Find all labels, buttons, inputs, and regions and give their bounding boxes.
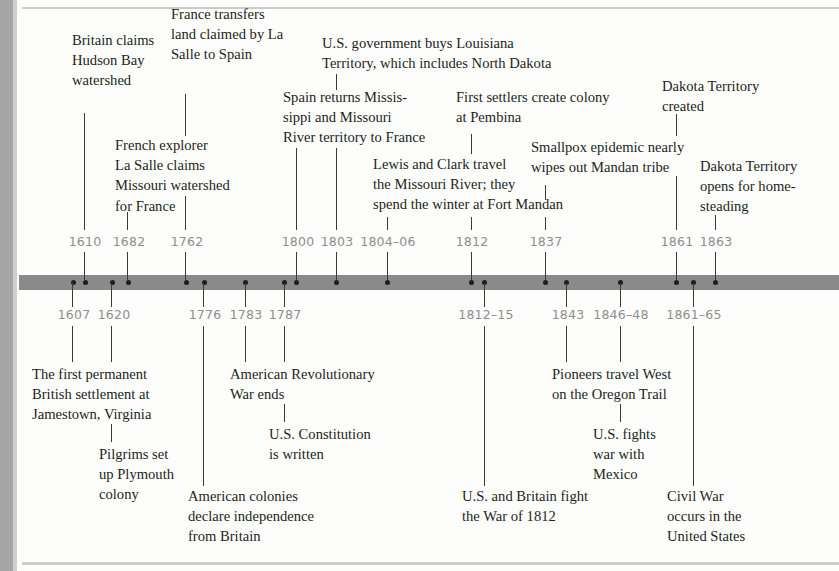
connector-1812-bar — [471, 252, 472, 280]
connector-1803-bar — [336, 252, 337, 280]
event-dot-1812[interactable] — [469, 280, 474, 285]
event-dot-1804-06[interactable] — [385, 280, 390, 285]
year-label-1682: 1682 — [113, 234, 146, 249]
connector-1863-label — [715, 215, 716, 230]
event-label-1861-65: Civil Waroccurs in theUnited States — [667, 486, 745, 547]
connector-1846-48-label — [620, 326, 621, 362]
connector-1610-label — [84, 113, 85, 230]
event-label-1812: First settlers create colonyat Pembina — [456, 87, 610, 127]
event-dot-1682[interactable] — [126, 280, 131, 285]
connector-1776-label — [203, 326, 204, 486]
year-label-1776: 1776 — [189, 307, 222, 322]
event-label-1861: Dakota Territorycreated — [662, 76, 759, 116]
year-label-1803: 1803 — [321, 234, 354, 249]
connector-1846-48-bar — [620, 283, 621, 307]
connector-1787-label-lower — [284, 404, 285, 422]
year-label-1863: 1863 — [700, 234, 733, 249]
connector-1843-label — [566, 326, 567, 362]
connector-1803-label-upper — [336, 74, 337, 90]
connector-1812-label-upper — [471, 134, 472, 154]
year-label-1812-15: 1812–15 — [458, 307, 513, 322]
year-label-1762: 1762 — [171, 234, 204, 249]
connector-1800-bar — [296, 252, 297, 280]
connector-1762-bar — [185, 252, 186, 280]
connector-1682-bar — [127, 252, 128, 280]
event-label-1682: French explorerLa Salle claimsMissouri w… — [115, 135, 230, 216]
connector-1861-65-label — [693, 326, 694, 486]
connector-1762-label-lower — [185, 196, 186, 230]
year-label-1812: 1812 — [456, 234, 489, 249]
bottom-rule — [22, 562, 839, 565]
page-edge-strip — [0, 0, 13, 571]
event-label-1776: American coloniesdeclare independencefro… — [188, 486, 314, 547]
connector-1843-bar — [566, 283, 567, 307]
year-label-1837: 1837 — [530, 234, 563, 249]
year-label-1800: 1800 — [282, 234, 315, 249]
event-label-1863: Dakota Territoryopens for home-steading — [700, 156, 797, 217]
connector-1861-label-upper — [676, 114, 677, 136]
event-label-1803: U.S. government buys LouisianaTerritory,… — [322, 33, 551, 73]
connector-1812-15-label — [484, 326, 485, 486]
event-label-1846-48: U.S. fightswar withMexico — [593, 424, 656, 485]
connector-1783-label — [245, 326, 246, 362]
event-label-1607: The first permanentBritish settlement at… — [32, 364, 151, 425]
connector-1837-label — [545, 185, 546, 200]
connector-1620-bar — [111, 283, 112, 307]
event-label-1812-15: U.S. and Britain fightthe War of 1812 — [462, 486, 588, 526]
year-label-1610: 1610 — [69, 234, 102, 249]
connector-1861-bar — [676, 252, 677, 280]
connector-1787-bar — [284, 283, 285, 307]
connector-1783-bar — [245, 283, 246, 307]
connector-1803-label — [336, 148, 337, 230]
event-label-1787: U.S. Constitutionis written — [269, 424, 371, 464]
connector-1787-label — [284, 326, 285, 362]
event-label-1783: American RevolutionaryWar ends — [230, 364, 375, 404]
year-label-1787: 1787 — [269, 307, 302, 322]
connector-1812-label — [471, 217, 472, 230]
top-rule — [22, 7, 839, 9]
connector-1861-65-bar — [693, 283, 694, 307]
connector-1682-label — [127, 212, 128, 230]
connector-1861-label — [676, 176, 677, 230]
event-dot-1863[interactable] — [713, 280, 718, 285]
event-dot-1861[interactable] — [674, 280, 679, 285]
event-dot-1610[interactable] — [83, 280, 88, 285]
connector-1607-label — [72, 326, 73, 362]
page-edge-shadow — [13, 0, 17, 571]
year-label-1861: 1861 — [661, 234, 694, 249]
event-dot-1762[interactable] — [184, 280, 189, 285]
event-dot-1837[interactable] — [543, 280, 548, 285]
year-label-1620: 1620 — [98, 307, 131, 322]
year-label-1861-65: 1861–65 — [666, 307, 721, 322]
connector-1800-label — [296, 148, 297, 230]
year-label-1783: 1783 — [230, 307, 263, 322]
year-label-1843: 1843 — [552, 307, 585, 322]
event-label-1843: Pioneers travel Weston the Oregon Trail — [552, 364, 671, 404]
event-label-1762: France transfersland claimed by LaSalle … — [171, 4, 283, 65]
connector-1837-bar — [545, 252, 546, 280]
connector-1607-bar — [72, 283, 73, 307]
event-dot-1803[interactable] — [334, 280, 339, 285]
connector-1762-label — [185, 94, 186, 136]
year-label-1846-48: 1846–48 — [593, 307, 648, 322]
year-label-1607: 1607 — [58, 307, 91, 322]
event-label-1610: Britain claimsHudson Baywatershed — [72, 30, 154, 91]
connector-1863-bar — [715, 252, 716, 280]
connector-1812-15-bar — [484, 283, 485, 307]
connector-1620-label-lower — [111, 424, 112, 442]
connector-1610-bar — [84, 252, 85, 280]
event-dot-1800[interactable] — [294, 280, 299, 285]
connector-1776-bar — [203, 283, 204, 307]
connector-1804-06-label — [387, 217, 388, 230]
year-label-1804-06: 1804–06 — [360, 234, 415, 249]
connector-1846-48-label-lower — [620, 404, 621, 422]
event-label-1620: Pilgrims setup Plymouthcolony — [99, 444, 174, 505]
connector-1837-label-lower — [545, 217, 546, 230]
connector-1620-label — [111, 326, 112, 362]
event-label-1800: Spain returns Missis-sippi and MissouriR… — [283, 87, 425, 148]
event-label-1837: Smallpox epidemic nearlywipes out Mandan… — [531, 137, 684, 177]
connector-1804-06-bar — [387, 252, 388, 280]
